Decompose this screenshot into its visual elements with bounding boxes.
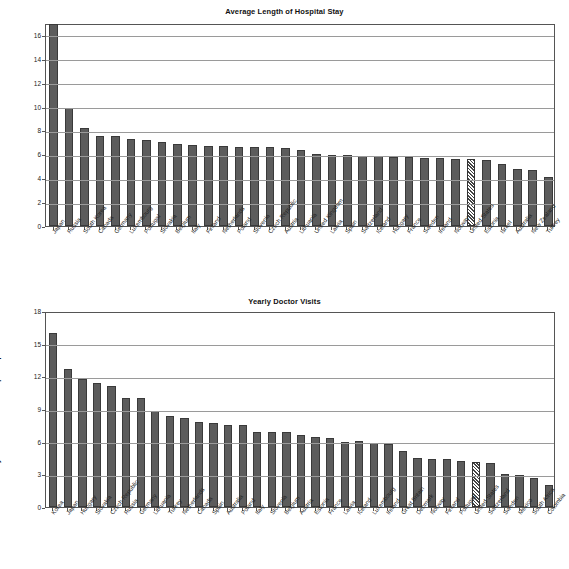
bar bbox=[420, 158, 429, 226]
gridline bbox=[46, 378, 554, 379]
bar bbox=[137, 398, 145, 507]
y-tick-mark bbox=[42, 345, 45, 346]
hospital-stay-chart: Average Length of Hospital Stay Average … bbox=[0, 0, 569, 290]
gridline bbox=[46, 36, 554, 37]
bar bbox=[49, 333, 57, 507]
y-tick-mark bbox=[42, 443, 45, 444]
gridline bbox=[46, 132, 554, 133]
bar bbox=[93, 383, 101, 507]
y-tick-mark bbox=[42, 475, 45, 476]
y-tick-label: 12 bbox=[25, 373, 41, 380]
doctor-visits-plot-area bbox=[45, 312, 555, 508]
gridline bbox=[46, 476, 554, 477]
gridline bbox=[46, 84, 554, 85]
y-tick-label: 16 bbox=[25, 32, 41, 39]
bar bbox=[188, 145, 197, 226]
y-tick-label: 15 bbox=[25, 341, 41, 348]
y-tick-label: 10 bbox=[25, 104, 41, 111]
y-tick-label: 3 bbox=[25, 471, 41, 478]
y-tick-label: 9 bbox=[25, 406, 41, 413]
bar bbox=[180, 418, 188, 507]
y-tick-label: 6 bbox=[25, 151, 41, 158]
bar bbox=[209, 423, 217, 507]
y-tick-mark bbox=[42, 155, 45, 156]
bar bbox=[219, 146, 228, 226]
y-tick-mark bbox=[42, 84, 45, 85]
y-tick-mark bbox=[42, 131, 45, 132]
y-tick-label: 12 bbox=[25, 80, 41, 87]
gridline bbox=[46, 180, 554, 181]
bar bbox=[107, 386, 115, 507]
hospital-stay-bars bbox=[46, 25, 554, 226]
y-tick-label: 18 bbox=[25, 308, 41, 315]
gridline bbox=[46, 204, 554, 205]
bar bbox=[389, 157, 398, 226]
gridline bbox=[46, 60, 554, 61]
chart-title-hospital-stay: Average Length of Hospital Stay bbox=[0, 0, 569, 18]
y-tick-mark bbox=[42, 108, 45, 109]
bar bbox=[513, 169, 522, 226]
y-tick-label: 0 bbox=[25, 223, 41, 230]
y-tick-mark bbox=[42, 60, 45, 61]
bar bbox=[399, 451, 407, 507]
bar bbox=[326, 438, 334, 507]
bar bbox=[49, 24, 58, 226]
bar bbox=[224, 425, 232, 507]
bar bbox=[297, 150, 306, 226]
y-tick-mark bbox=[42, 508, 45, 509]
y-tick-mark bbox=[42, 312, 45, 313]
y-tick-mark bbox=[42, 203, 45, 204]
gridline bbox=[46, 345, 554, 346]
chart-page: Average Length of Hospital Stay Average … bbox=[0, 0, 569, 569]
bar bbox=[111, 136, 120, 226]
y-tick-label: 8 bbox=[25, 127, 41, 134]
y-tick-mark bbox=[42, 36, 45, 37]
gridline bbox=[46, 108, 554, 109]
gridline bbox=[46, 443, 554, 444]
bar bbox=[343, 155, 352, 226]
bar bbox=[341, 442, 349, 507]
bar bbox=[355, 441, 363, 507]
bar bbox=[498, 164, 507, 226]
y-tick-label: 4 bbox=[25, 175, 41, 182]
y-tick-mark bbox=[42, 179, 45, 180]
y-tick-mark bbox=[42, 227, 45, 228]
hospital-stay-plot-area bbox=[45, 24, 555, 227]
gridline bbox=[46, 156, 554, 157]
bar bbox=[65, 108, 74, 226]
bar bbox=[80, 128, 89, 227]
gridline bbox=[46, 411, 554, 412]
bar bbox=[311, 437, 319, 507]
doctor-visits-chart: Yearly Doctor Visits Yearly Doctor Consu… bbox=[0, 290, 569, 569]
bar bbox=[451, 159, 460, 226]
chart-title-doctor-visits: Yearly Doctor Visits bbox=[0, 290, 569, 308]
bar bbox=[250, 147, 259, 226]
bar bbox=[358, 156, 367, 226]
y-tick-label: 0 bbox=[25, 504, 41, 511]
y-tick-mark bbox=[42, 377, 45, 378]
y-tick-label: 2 bbox=[25, 199, 41, 206]
bar bbox=[204, 146, 213, 226]
y-tick-label: 14 bbox=[25, 56, 41, 63]
bar bbox=[64, 369, 72, 507]
y-tick-mark bbox=[42, 410, 45, 411]
y-tick-label: 6 bbox=[25, 439, 41, 446]
